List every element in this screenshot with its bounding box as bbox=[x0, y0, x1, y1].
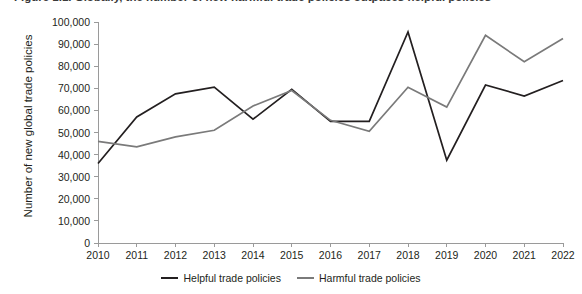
x-tick-label: 2018 bbox=[396, 250, 419, 261]
y-tick-label: 40,000 bbox=[0, 149, 90, 160]
series-line bbox=[98, 32, 563, 163]
y-tick-label: 90,000 bbox=[0, 39, 90, 50]
x-tick-label: 2014 bbox=[241, 250, 264, 261]
y-tick-label: 60,000 bbox=[0, 105, 90, 116]
legend-item[interactable]: Harmful trade policies bbox=[297, 272, 421, 284]
y-tick-label: 70,000 bbox=[0, 83, 90, 94]
legend-swatch-icon bbox=[161, 277, 178, 279]
y-tick-label: 80,000 bbox=[0, 61, 90, 72]
chart-series bbox=[98, 32, 563, 163]
y-tick-label: 20,000 bbox=[0, 193, 90, 204]
legend-swatch-icon bbox=[297, 277, 314, 279]
x-tick-label: 2015 bbox=[280, 250, 303, 261]
x-tick-label: 2022 bbox=[551, 250, 574, 261]
legend-label: Harmful trade policies bbox=[319, 272, 421, 284]
y-tick-label: 0 bbox=[0, 238, 90, 249]
y-tick-label: 30,000 bbox=[0, 171, 90, 182]
x-tick-label: 2010 bbox=[86, 250, 109, 261]
x-tick-label: 2017 bbox=[358, 250, 381, 261]
legend-label: Helpful trade policies bbox=[183, 272, 280, 284]
legend-item[interactable]: Helpful trade policies bbox=[161, 272, 280, 284]
x-tick-label: 2020 bbox=[474, 250, 497, 261]
y-tick-label: 10,000 bbox=[0, 215, 90, 226]
chart-axes bbox=[94, 22, 563, 247]
x-tick-label: 2011 bbox=[125, 250, 148, 261]
chart-figure: Figure 1.1. Globally, the number of new … bbox=[0, 0, 582, 294]
y-tick-label: 50,000 bbox=[0, 127, 90, 138]
x-tick-label: 2012 bbox=[164, 250, 187, 261]
y-tick-label: 100,000 bbox=[0, 17, 90, 28]
chart-legend: Helpful trade policiesHarmful trade poli… bbox=[0, 272, 582, 284]
x-tick-label: 2021 bbox=[513, 250, 536, 261]
x-tick-label: 2013 bbox=[203, 250, 226, 261]
x-tick-label: 2019 bbox=[435, 250, 458, 261]
series-line bbox=[98, 35, 563, 147]
x-tick-label: 2016 bbox=[319, 250, 342, 261]
